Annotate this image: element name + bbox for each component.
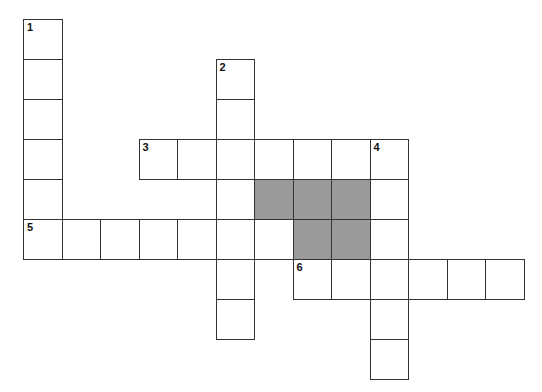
shaded-block bbox=[293, 179, 333, 220]
crossword-cell[interactable] bbox=[485, 259, 525, 300]
crossword-cell[interactable]: 5 bbox=[23, 219, 63, 260]
clue-number: 5 bbox=[27, 222, 33, 233]
crossword-cell[interactable]: 1 bbox=[23, 19, 63, 60]
crossword-cell[interactable] bbox=[254, 139, 294, 180]
shaded-block bbox=[254, 179, 294, 220]
clue-number: 6 bbox=[297, 262, 303, 273]
crossword-cell[interactable] bbox=[216, 179, 256, 220]
crossword-cell[interactable] bbox=[331, 139, 371, 180]
shaded-block bbox=[331, 219, 371, 260]
crossword-cell[interactable] bbox=[370, 259, 410, 300]
crossword-cell[interactable] bbox=[293, 139, 333, 180]
crossword-cell[interactable]: 4 bbox=[370, 139, 410, 180]
crossword-cell[interactable] bbox=[177, 219, 217, 260]
crossword-grid: 152346 bbox=[0, 0, 542, 392]
crossword-cell[interactable] bbox=[370, 219, 410, 260]
crossword-cell[interactable] bbox=[254, 219, 294, 260]
crossword-cell[interactable] bbox=[408, 259, 448, 300]
clue-number: 1 bbox=[27, 22, 33, 33]
crossword-cell[interactable] bbox=[23, 139, 63, 180]
shaded-block bbox=[331, 179, 371, 220]
crossword-cell[interactable]: 6 bbox=[293, 259, 333, 300]
crossword-cell[interactable] bbox=[370, 179, 410, 220]
crossword-cell[interactable] bbox=[139, 219, 179, 260]
shaded-block bbox=[293, 219, 333, 260]
crossword-cell[interactable]: 3 bbox=[139, 139, 179, 180]
crossword-cell[interactable] bbox=[100, 219, 140, 260]
crossword-cell[interactable] bbox=[216, 259, 256, 300]
crossword-cell[interactable] bbox=[23, 99, 63, 140]
crossword-cell[interactable] bbox=[177, 139, 217, 180]
crossword-cell[interactable] bbox=[216, 99, 256, 140]
crossword-cell[interactable]: 2 bbox=[216, 59, 256, 100]
crossword-cell[interactable] bbox=[23, 59, 63, 100]
crossword-cell[interactable] bbox=[23, 179, 63, 220]
crossword-cell[interactable] bbox=[331, 259, 371, 300]
crossword-cell[interactable] bbox=[447, 259, 487, 300]
crossword-cell[interactable] bbox=[216, 299, 256, 340]
clue-number: 3 bbox=[143, 142, 149, 153]
crossword-cell[interactable] bbox=[370, 339, 410, 380]
crossword-cell[interactable] bbox=[370, 299, 410, 340]
crossword-cell[interactable] bbox=[216, 139, 256, 180]
crossword-cell[interactable] bbox=[62, 219, 102, 260]
clue-number: 4 bbox=[374, 142, 380, 153]
clue-number: 2 bbox=[220, 62, 226, 73]
crossword-cell[interactable] bbox=[216, 219, 256, 260]
